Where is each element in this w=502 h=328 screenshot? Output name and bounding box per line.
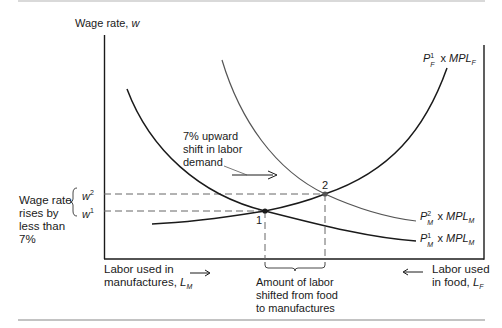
w1-label: w1 (82, 204, 94, 221)
shift-annotation: 7% upward shift in labor demand (183, 130, 242, 169)
label-pm2-mpl-sub: M (469, 217, 475, 224)
shift-annotation-line1: 7% upward (183, 130, 242, 143)
label-pf1-sub: F (430, 58, 434, 71)
wage-rise-line2: rises by (19, 207, 72, 220)
lf-axis-line2: in food, (432, 276, 473, 288)
label-pm1-sub: M (427, 238, 433, 251)
point-1-label: 1 (256, 214, 262, 227)
lm-axis-line2: manufactures, (104, 276, 180, 288)
shift-annotation-line3: demand (183, 156, 242, 169)
label-pm2-mpl: MPL (446, 210, 469, 222)
wage-rise-line3: less than (19, 220, 72, 233)
point-1-marker (262, 208, 267, 213)
y-axis-label-text: Wage rate, (75, 17, 131, 29)
labor-shift-annotation: Amount of labor shifted from food to man… (256, 276, 338, 315)
w2-sup: 2 (90, 189, 94, 196)
curve-pm1-mplm (127, 89, 416, 241)
label-pm1-base: P (420, 232, 427, 244)
y-axis-label-var: w (131, 17, 139, 29)
y-axis-label: Wage rate, w (75, 17, 139, 30)
label-pm1-mpl-sub: M (469, 239, 475, 246)
label-pf1-base: P (423, 52, 430, 64)
w2-label: w2 (82, 186, 94, 203)
label-pf1-mpl: MPL (449, 52, 472, 64)
label-pm2-mplm: P2M x MPLM (420, 210, 474, 227)
label-pm2-base: P (420, 210, 427, 222)
diagram-canvas (0, 0, 502, 328)
label-pm2-sub: M (427, 216, 433, 229)
wage-rise-line1: Wage rate (19, 194, 72, 207)
lm-axis-sub: M (186, 283, 192, 290)
labor-shift-line3: to manufactures (256, 302, 338, 315)
label-pm1-times: x (434, 232, 446, 244)
lm-axis-line1: Labor used in (104, 263, 192, 276)
w1-sup: 1 (90, 207, 94, 214)
lf-axis-line1: Labor used (432, 263, 490, 276)
shift-annotation-line2: shift in labor (183, 143, 242, 156)
label-pf1-mpl-sub: F (472, 59, 476, 66)
point-2-label: 2 (322, 179, 328, 192)
label-pf1-mplf: P1F x MPLF (423, 52, 476, 69)
wage-rise-annotation: Wage rate rises by less than 7% (19, 194, 72, 246)
w2-base: w (82, 190, 90, 202)
wage-rise-line4: 7% (19, 233, 72, 246)
labor-shift-line1: Amount of labor (256, 276, 338, 289)
w1-base: w (82, 208, 90, 220)
label-pm1-mplm: P1M x MPLM (420, 232, 474, 249)
point-2-marker (322, 191, 327, 196)
label-pf1-times: x (437, 52, 449, 64)
label-pm1-mpl: MPL (446, 232, 469, 244)
labor-shift-line2: shifted from food (256, 289, 338, 302)
lf-axis-label: Labor used in food, LF (432, 263, 490, 293)
lm-axis-label: Labor used in manufactures, LM (104, 263, 192, 293)
labor-shift-brace (265, 262, 325, 271)
lf-axis-sub: F (479, 283, 483, 290)
label-pm2-times: x (434, 210, 446, 222)
